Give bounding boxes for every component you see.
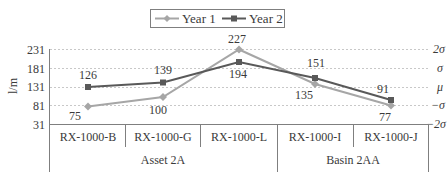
y-tick-231: 231 xyxy=(27,43,45,57)
category-label: RX-1000-B xyxy=(60,130,117,144)
data-labels-year-2: 126 139 194 151 91 xyxy=(79,56,389,96)
data-label: 91 xyxy=(377,82,389,96)
data-point xyxy=(236,59,242,65)
y-tick-31: 31 xyxy=(33,118,45,132)
sigma-labels: 2σ σ μ −σ −2σ xyxy=(426,42,447,131)
sigma-label-plus-1: σ xyxy=(437,61,444,75)
category-label: RX-1000-I xyxy=(289,130,342,144)
sigma-label-plus-2: 2σ xyxy=(433,42,446,56)
data-point xyxy=(85,84,91,90)
series-year-2 xyxy=(85,59,394,103)
data-point xyxy=(312,75,318,81)
data-point xyxy=(388,97,394,103)
data-point xyxy=(311,80,319,88)
data-label: 194 xyxy=(229,67,247,81)
legend-label-year-1: Year 1 xyxy=(182,11,216,26)
data-label: 139 xyxy=(154,63,172,77)
sigma-label-mean: μ xyxy=(436,80,443,94)
y-tick-81: 81 xyxy=(33,99,45,113)
data-label: 77 xyxy=(379,110,391,124)
sigma-label-minus-1: −σ xyxy=(431,98,446,112)
y-tick-labels: 231 181 131 81 31 xyxy=(27,43,45,132)
category-label: RX-1000-G xyxy=(134,130,192,144)
data-label: 100 xyxy=(149,103,167,117)
category-label: RX-1000-J xyxy=(364,130,418,144)
data-label: 126 xyxy=(79,68,97,82)
x-category-labels: RX-1000-B RX-1000-G RX-1000-L RX-1000-I … xyxy=(60,130,418,144)
data-label: 75 xyxy=(69,109,81,123)
legend: Year 1 Year 2 xyxy=(151,10,285,28)
legend-label-year-2: Year 2 xyxy=(249,11,283,26)
line-chart: Year 1 Year 2 l/m 231 181 131 81 31 2σ σ… xyxy=(0,0,447,178)
data-point xyxy=(84,103,92,111)
data-label: 227 xyxy=(228,32,246,46)
category-label: RX-1000-L xyxy=(211,130,267,144)
y-tick-181: 181 xyxy=(27,62,45,76)
group-label-basin-2aa: Basin 2AA xyxy=(326,153,380,167)
sigma-label-minus-2: −2σ xyxy=(426,117,447,131)
y-tick-131: 131 xyxy=(27,80,45,94)
group-label-asset-2a: Asset 2A xyxy=(141,153,186,167)
x-group-labels: Asset 2A Basin 2AA xyxy=(141,153,380,167)
square-marker-icon xyxy=(231,16,237,22)
y-axis-label: l/m xyxy=(6,77,20,94)
data-point xyxy=(160,80,166,86)
data-label: 135 xyxy=(295,88,313,102)
data-label: 151 xyxy=(307,56,325,70)
